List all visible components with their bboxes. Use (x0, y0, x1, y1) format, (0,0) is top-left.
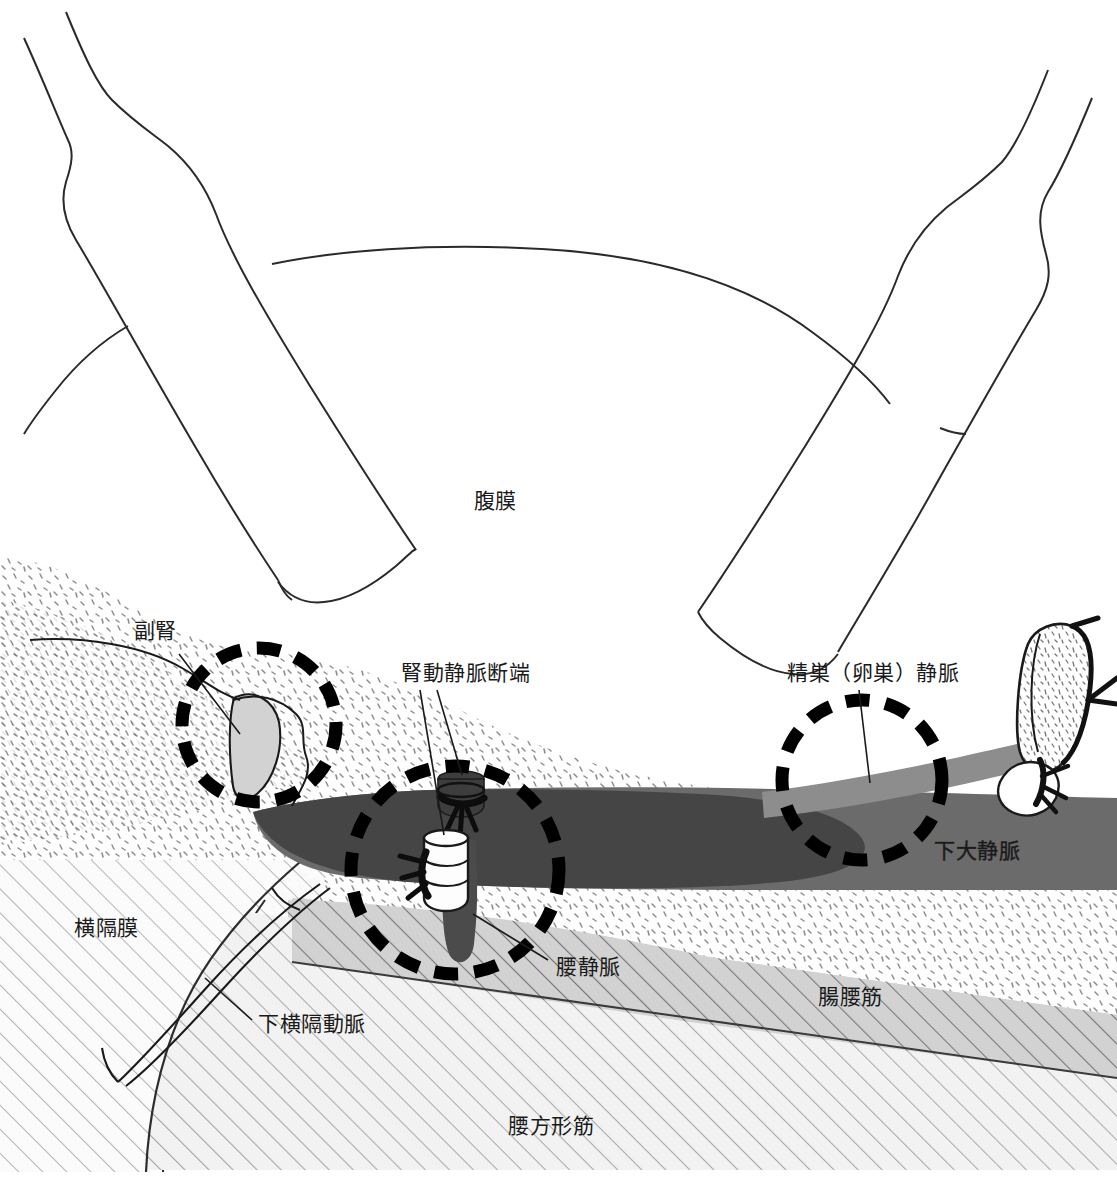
label-iliopsoas: 腸腰筋 (818, 985, 883, 1008)
label-renal-vessel-stumps: 腎動静脈断端 (401, 661, 530, 684)
figure-canvas: 腹膜 副腎 腎動静脈断端 精巣（卵巣）静脈 下大静脈 腰静脈 横隔膜 下横隔動脈… (0, 0, 1117, 1191)
label-quadratus-lumborum: 腰方形筋 (508, 1114, 594, 1137)
label-peritoneum: 腹膜 (474, 489, 517, 512)
label-adrenal-gland: 副腎 (134, 619, 177, 642)
label-inferior-phrenic-artery: 下横隔動脈 (258, 1012, 366, 1035)
label-diaphragm: 横隔膜 (74, 916, 139, 939)
label-gonadal-vein: 精巣（卵巣）静脈 (787, 661, 959, 684)
label-inferior-vena-cava: 下大静脈 (934, 839, 1020, 862)
retroperitoneum-anatomy-svg: 腹膜 副腎 腎動静脈断端 精巣（卵巣）静脈 下大静脈 腰静脈 横隔膜 下横隔動脈… (0, 0, 1117, 1191)
label-lumbar-vein: 腰静脈 (556, 955, 621, 978)
